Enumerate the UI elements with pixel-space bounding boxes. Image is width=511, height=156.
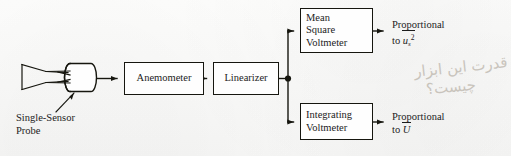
block-integrating-voltmeter[interactable]: Integrating Voltmeter: [300, 103, 373, 140]
output-bottom-line-2: to U: [392, 123, 445, 136]
block-mean-square-voltmeter[interactable]: Mean Square Voltmeter: [300, 8, 373, 53]
output-top-prefix: to: [392, 35, 403, 46]
output-top-line-1: Proportional: [392, 18, 445, 31]
probe-caption-line-2: Probe: [16, 125, 75, 138]
probe-caption: Single-Sensor Probe: [16, 112, 75, 138]
signal-junction-dot: [285, 75, 291, 81]
output-bottom-quantity: U: [403, 123, 411, 136]
block-integrating-label-line-2: Voltmeter: [306, 122, 347, 135]
output-top-line-2: to us2: [392, 31, 445, 51]
block-mean-square-label-line-1: Mean: [306, 12, 330, 25]
output-label-mean-square: Proportional to us2: [392, 18, 445, 51]
probe-cylinder: [65, 64, 97, 92]
output-top-quantity: us2: [403, 31, 415, 51]
block-mean-square-label-line-2: Square: [306, 24, 335, 37]
probe-prongs: [22, 65, 70, 90]
block-mean-square-label-line-3: Voltmeter: [306, 37, 347, 50]
block-anemometer-label: Anemometer: [137, 72, 192, 85]
block-integrating-label-line-1: Integrating: [306, 109, 352, 122]
probe-caption-line-1: Single-Sensor: [16, 112, 75, 125]
output-top-superscript: 2: [411, 33, 415, 42]
output-bottom-line-1: Proportional: [392, 110, 445, 123]
figure-canvas: Anemometer Linearizer Mean Square Voltme…: [0, 0, 511, 156]
output-bottom-prefix: to: [392, 124, 403, 135]
block-linearizer[interactable]: Linearizer: [213, 62, 279, 95]
output-bottom-symbol: U: [403, 124, 411, 135]
block-anemometer[interactable]: Anemometer: [124, 62, 204, 95]
block-linearizer-label: Linearizer: [224, 72, 267, 85]
output-label-integrating: Proportional to U: [392, 110, 445, 136]
